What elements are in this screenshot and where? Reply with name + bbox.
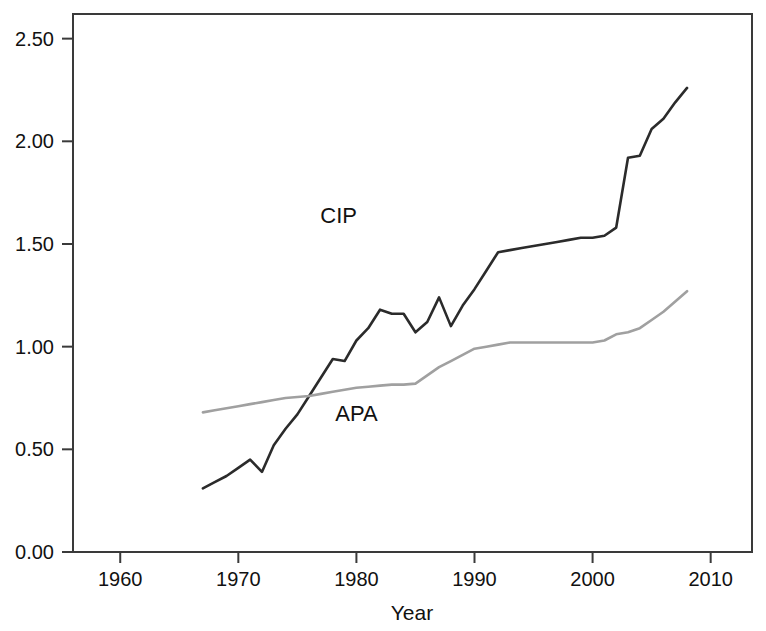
plot-frame	[73, 14, 752, 552]
y-tick-label: 1.00	[15, 336, 54, 358]
x-tick-label: 1960	[98, 568, 143, 590]
series-line-cip	[203, 88, 687, 488]
x-tick-label: 2000	[570, 568, 615, 590]
x-tick-label: 1970	[216, 568, 261, 590]
y-tick-label: 1.50	[15, 233, 54, 255]
line-chart: 0.000.501.001.502.002.50 196019701980199…	[0, 0, 766, 631]
plot-area-border	[73, 14, 752, 552]
x-tick-label: 1990	[452, 568, 497, 590]
series-label-apa: APA	[335, 401, 378, 426]
series-label-cip: CIP	[320, 203, 357, 228]
data-series-group	[203, 88, 687, 488]
x-axis-ticks: 196019701980199020002010	[98, 552, 733, 590]
y-tick-label: 2.00	[15, 130, 54, 152]
x-tick-label: 1980	[334, 568, 379, 590]
x-tick-label: 2010	[688, 568, 733, 590]
x-axis-title: Year	[391, 601, 433, 624]
y-tick-label: 2.50	[15, 28, 54, 50]
chart-figure: 0.000.501.001.502.002.50 196019701980199…	[0, 0, 766, 631]
y-tick-label: 0.00	[15, 541, 54, 563]
y-tick-label: 0.50	[15, 438, 54, 460]
y-axis-ticks: 0.000.501.001.502.002.50	[15, 28, 73, 563]
